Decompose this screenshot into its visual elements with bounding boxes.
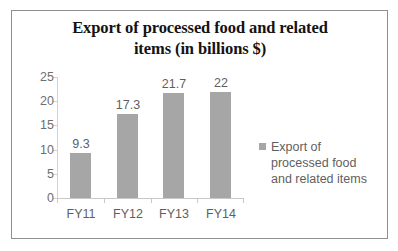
x-axis-category-label-fy14: FY14 (206, 207, 236, 221)
bar-fy14[interactable] (210, 92, 231, 198)
legend-line-3: and related items (271, 172, 367, 186)
plot-area: 25 20 15 10 5 0 9.3 17.3 21.7 22 FY11 FY… (12, 11, 389, 240)
bar-fy11[interactable] (70, 153, 91, 198)
x-axis-category-label-fy11: FY11 (67, 207, 96, 221)
legend-line-2: processed food (271, 156, 356, 170)
x-tickmark (243, 198, 244, 203)
y-axis-tick-label: 15 (40, 118, 54, 132)
chart-frame: Export of processed food and related ite… (11, 10, 388, 239)
y-axis-tick-label: 20 (40, 94, 54, 108)
y-axis-tick-label: 25 (40, 70, 54, 84)
bar-value-label-fy14: 22 (214, 76, 228, 90)
bar-value-label-fy11: 9.3 (72, 137, 89, 151)
x-tickmark (104, 198, 105, 203)
y-axis-line (57, 77, 58, 198)
legend-line-1: Export of (271, 140, 321, 154)
x-tickmark (57, 198, 58, 203)
y-axis-labels: 25 20 15 10 5 0 (28, 77, 54, 198)
y-axis-tick-label: 5 (47, 167, 54, 181)
y-axis-tick-label: 0 (47, 191, 54, 205)
bar-value-label-fy12: 17.3 (116, 98, 140, 112)
x-tickmark (151, 198, 152, 203)
x-tickmark (197, 198, 198, 203)
bar-fy12[interactable] (117, 114, 138, 198)
x-axis-category-label-fy12: FY12 (113, 207, 143, 221)
bar-value-label-fy13: 21.7 (162, 77, 186, 91)
x-axis-category-label-fy13: FY13 (159, 207, 189, 221)
bar-fy13[interactable] (163, 93, 184, 198)
y-axis-tick-label: 10 (40, 143, 54, 157)
legend-entry-label: Export of processed food and related ite… (271, 139, 379, 187)
chart-legend: Export of processed food and related ite… (259, 139, 379, 187)
legend-swatch-icon (259, 143, 266, 150)
